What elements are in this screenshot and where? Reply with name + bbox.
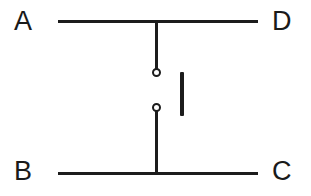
bottom-branch-wire: [155, 108, 158, 173]
upper-terminal-icon: [152, 68, 161, 77]
node-label-b: B: [14, 158, 32, 185]
lower-terminal-icon: [152, 103, 161, 112]
top-rail-wire: [58, 20, 258, 23]
bottom-rail-wire: [58, 172, 258, 175]
top-branch-wire: [155, 21, 158, 72]
node-label-d: D: [272, 8, 292, 35]
node-label-a: A: [14, 8, 32, 35]
circuit-diagram-canvas: A D B C: [0, 0, 311, 196]
switch-blade-icon: [180, 72, 184, 116]
node-label-c: C: [272, 158, 292, 185]
